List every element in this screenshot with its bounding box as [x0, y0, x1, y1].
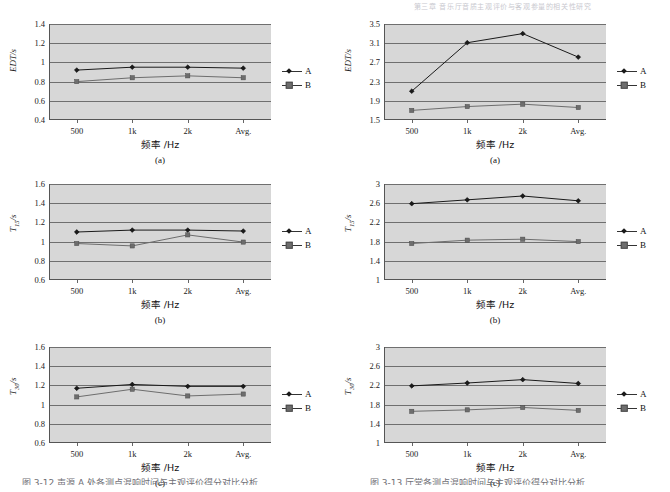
legend-line — [282, 245, 302, 246]
bottom-caption-left: 图 3-12 声源 A 处各测点混响时间与主观评价得分对比分析 — [22, 476, 258, 485]
data-point-B — [75, 395, 79, 399]
legend-item-B: B — [282, 238, 334, 252]
legend-item-B: B — [282, 401, 334, 415]
x-tick — [132, 280, 133, 283]
legend-item-A: A — [617, 387, 669, 401]
series-line-A — [77, 230, 244, 232]
x-tick — [578, 120, 579, 123]
data-point-B — [130, 76, 134, 80]
x-tick-label: 2k — [519, 450, 528, 459]
legend-label: A — [640, 226, 647, 236]
x-tick-label: 500 — [70, 287, 83, 296]
y-tick-label: 1.5 — [369, 116, 380, 125]
diamond-marker-icon — [621, 68, 627, 74]
y-tick-label: 1.4 — [34, 362, 45, 371]
y-axis-title: T30/s — [8, 377, 20, 395]
x-axis-title: 频率 /Hz — [49, 460, 271, 474]
legend-label: B — [640, 240, 646, 250]
y-tick-label: 2.2 — [369, 218, 380, 227]
x-tick — [578, 443, 579, 446]
y-tick-label: 2.7 — [369, 58, 380, 67]
x-tick — [188, 120, 189, 123]
legend-label: A — [305, 389, 312, 399]
square-marker-icon — [286, 405, 293, 412]
data-point-B — [130, 387, 134, 391]
chart-right-a: EDT/s1.51.92.32.73.13.55001k2kAvg.频率 /Hz… — [335, 10, 670, 170]
x-tick-label: 2k — [519, 127, 528, 136]
bottom-caption-right: 图 3-13 厅堂各测点混响时间与主观评价得分对比分析 — [370, 476, 585, 485]
plot-area: 0.40.60.811.21.45001k2kAvg. — [49, 24, 271, 120]
y-axis-title: EDT/s — [8, 49, 18, 72]
legend-label: B — [305, 403, 311, 413]
x-tick — [243, 120, 244, 123]
x-tick-label: 500 — [405, 127, 418, 136]
legend-label: A — [305, 226, 312, 236]
series-line-A — [77, 67, 244, 70]
subfigure-caption: (a) — [384, 155, 606, 165]
x-tick-label: 500 — [405, 450, 418, 459]
square-marker-icon — [621, 405, 628, 412]
legend-line — [617, 408, 637, 409]
data-point-A — [74, 230, 79, 235]
data-point-A — [185, 384, 190, 389]
square-marker-icon — [621, 242, 628, 249]
legend-label: B — [305, 240, 311, 250]
y-tick-label: 1 — [376, 439, 380, 448]
legend-line — [617, 231, 637, 232]
plot-area: 0.60.811.21.41.65001k2kAvg. — [49, 347, 271, 443]
x-tick — [523, 443, 524, 446]
y-tick-label: 0.8 — [34, 420, 45, 429]
x-tick — [188, 443, 189, 446]
series-line-B — [77, 76, 244, 82]
series-layer — [49, 184, 271, 280]
x-tick — [578, 280, 579, 283]
diamond-marker-icon — [621, 391, 627, 397]
y-tick-label: 1 — [41, 400, 45, 409]
subfigure-caption: (b) — [49, 315, 271, 325]
x-tick-label: 1k — [128, 127, 137, 136]
plot-area: 11.41.82.22.635001k2kAvg. — [384, 347, 606, 443]
legend-item-A: A — [617, 64, 669, 78]
series-layer — [384, 347, 606, 443]
data-point-A — [520, 194, 525, 199]
plot-area: 1.51.92.32.73.13.55001k2kAvg. — [384, 24, 606, 120]
y-tick-label: 1.9 — [369, 97, 380, 106]
y-axis-title: EDT/s — [343, 49, 353, 72]
series-line-B — [412, 239, 579, 243]
x-tick — [77, 443, 78, 446]
data-point-A — [130, 228, 135, 233]
series-line-A — [77, 384, 244, 388]
data-point-A — [520, 31, 525, 36]
data-point-B — [130, 244, 134, 248]
series-layer — [384, 184, 606, 280]
data-point-B — [75, 241, 79, 245]
x-tick-label: Avg. — [570, 450, 586, 459]
legend-line — [617, 85, 637, 86]
x-tick-label: Avg. — [570, 127, 586, 136]
square-marker-icon — [286, 82, 293, 89]
chart-legend: AB — [282, 387, 334, 415]
series-layer — [49, 24, 271, 120]
data-point-B — [241, 76, 245, 80]
x-tick — [243, 443, 244, 446]
legend-item-B: B — [617, 401, 669, 415]
chart-left-a: EDT/s0.40.60.811.21.45001k2kAvg.频率 /Hz(a… — [0, 10, 335, 170]
x-tick — [77, 280, 78, 283]
data-point-A — [576, 55, 581, 60]
x-tick — [77, 120, 78, 123]
legend-label: B — [640, 403, 646, 413]
x-tick — [132, 120, 133, 123]
data-point-B — [186, 74, 190, 78]
legend-line — [282, 71, 302, 72]
y-tick-label: 2.6 — [369, 362, 380, 371]
series-line-B — [412, 407, 579, 411]
diamond-marker-icon — [621, 228, 627, 234]
y-axis-title: T15/s — [8, 214, 20, 232]
x-tick-label: Avg. — [235, 450, 251, 459]
x-tick — [188, 280, 189, 283]
legend-item-A: A — [617, 224, 669, 238]
x-tick-label: 500 — [70, 450, 83, 459]
x-axis-title: 频率 /Hz — [49, 297, 271, 311]
x-tick-label: 2k — [184, 127, 193, 136]
legend-item-A: A — [282, 64, 334, 78]
